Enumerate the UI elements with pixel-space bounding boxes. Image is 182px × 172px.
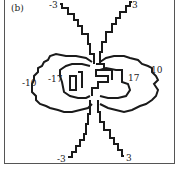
label-bottom-left: -3 — [57, 155, 66, 164]
label-mid-right-inner: 17 — [128, 74, 139, 83]
label-top-left: -3 — [49, 1, 58, 10]
contour-top-right — [100, 2, 132, 64]
label-mid-left-inner: -17 — [48, 75, 63, 84]
panel-label: (b) — [11, 4, 24, 13]
contour-inner-box-left — [70, 72, 82, 90]
label-bottom-right: 3 — [126, 154, 132, 163]
label-mid-right-outer: 10 — [151, 66, 162, 75]
label-mid-left-outer: -10 — [22, 79, 37, 88]
label-top-right: 3 — [132, 1, 138, 10]
